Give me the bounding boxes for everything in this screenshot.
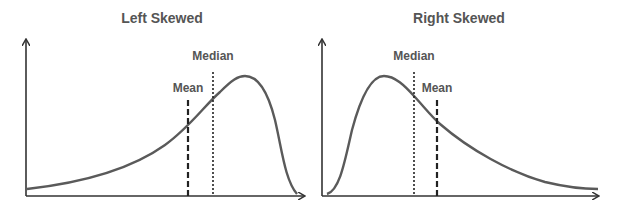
distribution-curve xyxy=(327,76,598,194)
panel-title: Right Skewed xyxy=(413,10,505,26)
distribution-curve xyxy=(27,76,297,194)
panel-title: Left Skewed xyxy=(121,10,203,26)
mean-label: Mean xyxy=(173,81,204,95)
mean-label: Mean xyxy=(422,81,453,95)
right-skewed-panel: Right Skewed Median Mean xyxy=(322,10,598,196)
median-label: Median xyxy=(192,49,233,63)
skewness-diagram: Left Skewed Mean Median Right Skewed Med… xyxy=(0,0,618,212)
left-skewed-panel: Left Skewed Mean Median xyxy=(26,10,304,196)
median-label: Median xyxy=(393,49,434,63)
